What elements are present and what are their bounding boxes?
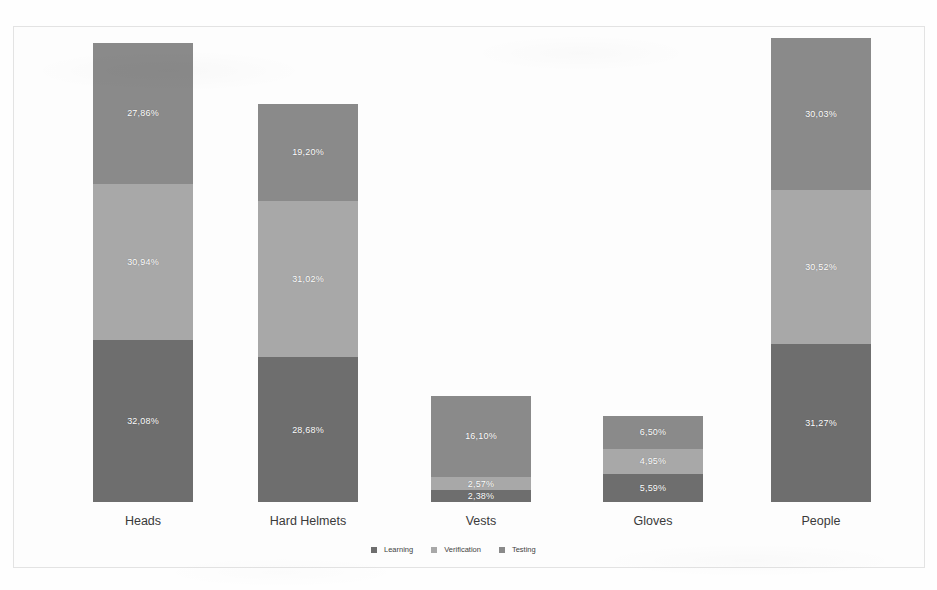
- bar-group-people[interactable]: 30,03%30,52%31,27%People: [731, 38, 911, 528]
- bar-segment-testing[interactable]: 30,03%: [771, 38, 871, 190]
- bar-segment-verification[interactable]: 30,52%: [771, 190, 871, 344]
- bar-segment-value-label: 30,94%: [127, 257, 159, 267]
- bar-segment-value-label: 16,10%: [465, 431, 497, 441]
- bar-group-gloves[interactable]: 6,50%4,95%5,59%Gloves: [563, 416, 743, 528]
- legend-item-verification[interactable]: Verification: [431, 545, 481, 554]
- bar-segment-value-label: 27,86%: [127, 108, 159, 118]
- bar-stack: 16,10%2,57%2,38%: [431, 396, 531, 502]
- bar-segment-testing[interactable]: 6,50%: [603, 416, 703, 449]
- bar-segment-learning[interactable]: 2,38%: [431, 490, 531, 502]
- chart-legend: LearningVerificationTesting: [371, 545, 536, 554]
- legend-label: Verification: [444, 545, 481, 554]
- bar-segment-value-label: 5,59%: [640, 483, 667, 493]
- bar-segment-value-label: 6,50%: [640, 427, 667, 437]
- bar-segment-value-label: 30,52%: [805, 262, 837, 272]
- bar-segment-value-label: 2,57%: [468, 479, 495, 489]
- category-axis-label: Heads: [125, 514, 161, 528]
- category-axis-label: People: [802, 514, 841, 528]
- bar-segment-value-label: 19,20%: [292, 147, 324, 157]
- category-axis-label: Vests: [466, 514, 497, 528]
- stacked-bar-chart: 27,86%30,94%32,08%Heads19,20%31,02%28,68…: [0, 0, 937, 590]
- legend-label: Testing: [512, 545, 536, 554]
- bar-stack: 30,03%30,52%31,27%: [771, 38, 871, 502]
- bar-stack: 6,50%4,95%5,59%: [603, 416, 703, 502]
- bar-segment-verification[interactable]: 31,02%: [258, 201, 358, 358]
- bar-stack: 27,86%30,94%32,08%: [93, 43, 193, 502]
- bar-segment-testing[interactable]: 27,86%: [93, 43, 193, 184]
- bar-group-vests[interactable]: 16,10%2,57%2,38%Vests: [391, 396, 571, 528]
- bar-segment-value-label: 32,08%: [127, 416, 159, 426]
- bar-group-hard-helmets[interactable]: 19,20%31,02%28,68%Hard Helmets: [218, 104, 398, 528]
- legend-swatch-icon: [431, 547, 437, 553]
- bar-group-heads[interactable]: 27,86%30,94%32,08%Heads: [53, 43, 233, 528]
- bar-segment-verification[interactable]: 4,95%: [603, 449, 703, 474]
- category-axis-label: Hard Helmets: [270, 514, 346, 528]
- bar-segment-learning[interactable]: 5,59%: [603, 474, 703, 502]
- bar-segment-testing[interactable]: 16,10%: [431, 396, 531, 477]
- bar-segment-value-label: 30,03%: [805, 109, 837, 119]
- bar-segment-value-label: 28,68%: [292, 425, 324, 435]
- bar-segment-verification[interactable]: 2,57%: [431, 477, 531, 490]
- legend-item-testing[interactable]: Testing: [499, 545, 536, 554]
- bar-segment-value-label: 4,95%: [640, 456, 667, 466]
- bar-segment-learning[interactable]: 28,68%: [258, 357, 358, 502]
- legend-label: Learning: [384, 545, 413, 554]
- plot-area: 27,86%30,94%32,08%Heads19,20%31,02%28,68…: [13, 26, 925, 568]
- legend-swatch-icon: [371, 547, 377, 553]
- bar-segment-learning[interactable]: 32,08%: [93, 340, 193, 502]
- legend-item-learning[interactable]: Learning: [371, 545, 413, 554]
- bar-segment-value-label: 31,27%: [805, 418, 837, 428]
- category-axis-label: Gloves: [634, 514, 673, 528]
- bar-stack: 19,20%31,02%28,68%: [258, 104, 358, 502]
- bar-segment-verification[interactable]: 30,94%: [93, 184, 193, 340]
- legend-swatch-icon: [499, 547, 505, 553]
- bar-segment-learning[interactable]: 31,27%: [771, 344, 871, 502]
- bar-segment-testing[interactable]: 19,20%: [258, 104, 358, 201]
- bar-segment-value-label: 2,38%: [468, 491, 495, 501]
- bar-segment-value-label: 31,02%: [292, 274, 324, 284]
